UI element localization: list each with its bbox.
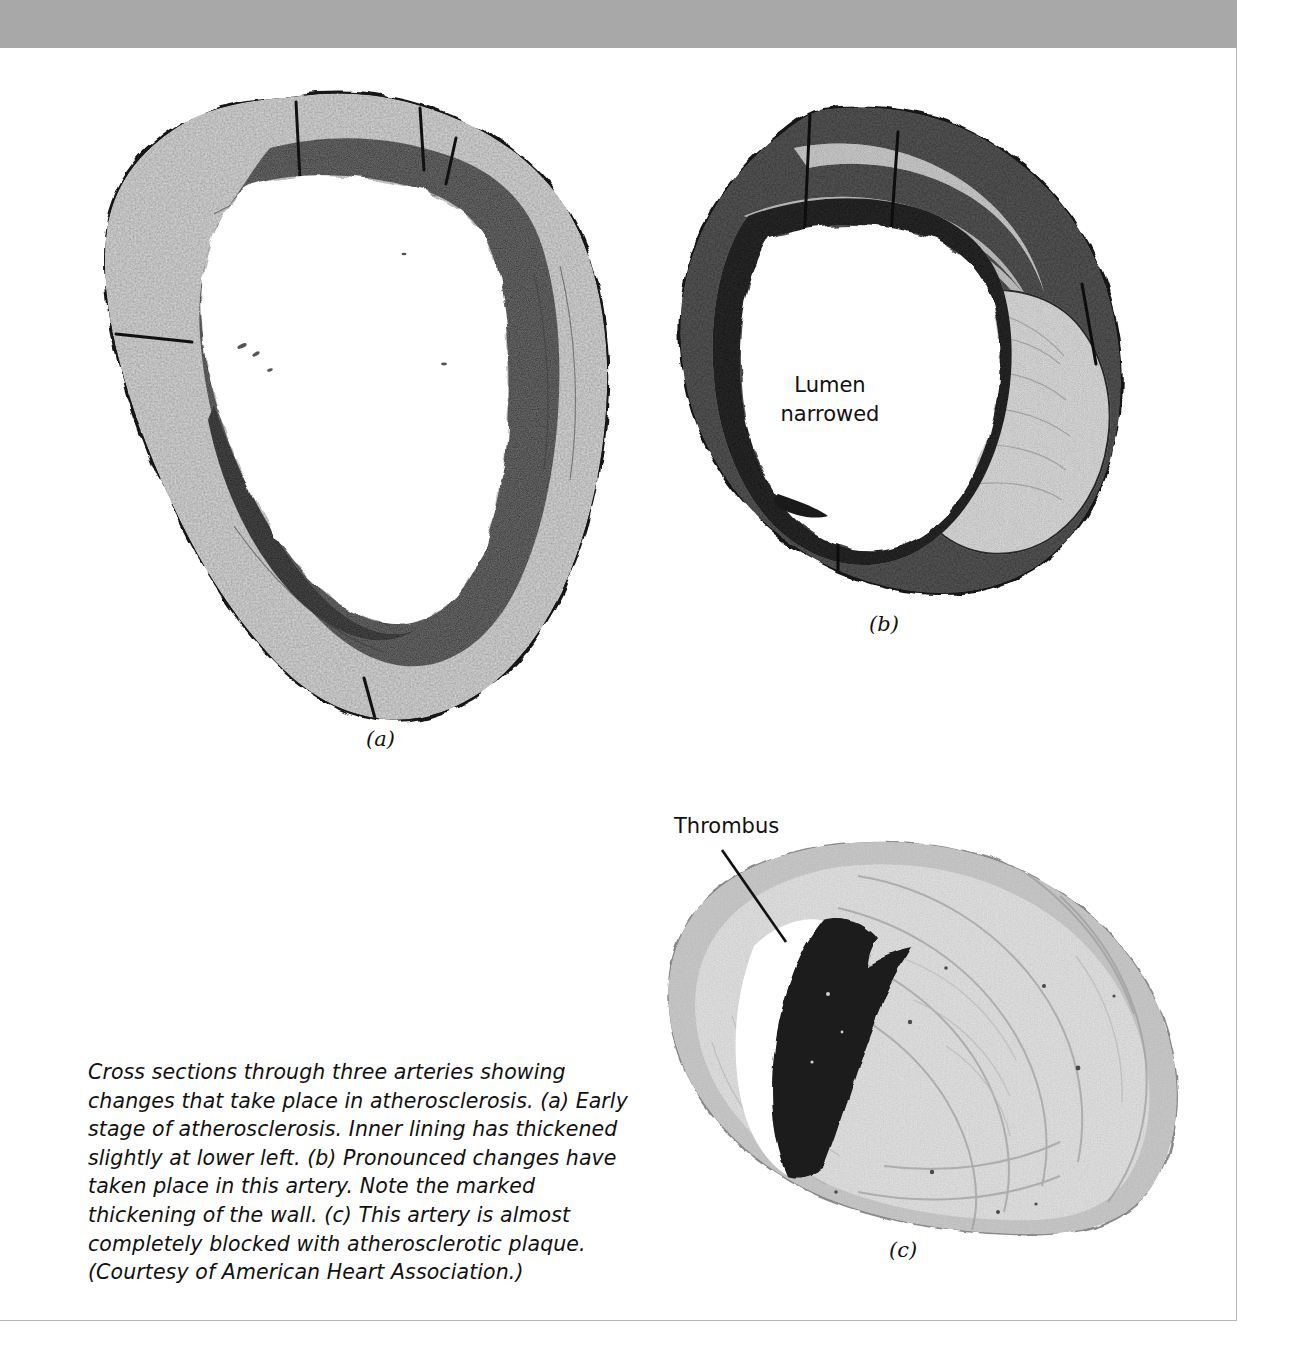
page-edge-rule-right (1236, 48, 1237, 1321)
page-edge-rule-bottom (0, 1320, 1237, 1321)
header-band (0, 0, 1237, 48)
artery-cross-section-a (64, 74, 664, 724)
artery-cross-section-b (652, 96, 1172, 596)
thrombus-label: Thrombus (674, 812, 779, 841)
panel-letter-b: (b) (869, 612, 899, 636)
figure-page: Lumen narrowed Thrombus (a) (b) (c) Cros… (0, 0, 1292, 1355)
lumen-narrowed-label: Lumen narrowed (765, 371, 895, 429)
panel-letter-c: (c) (889, 1238, 917, 1262)
thrombus-leader-line (700, 840, 810, 955)
panel-letter-a: (a) (366, 727, 395, 751)
figure-caption: Cross sections through three arteries sh… (88, 1058, 628, 1287)
